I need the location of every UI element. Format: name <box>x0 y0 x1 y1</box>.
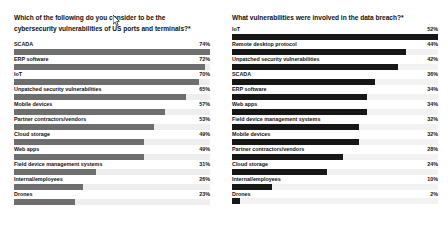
chart-bar <box>232 79 375 85</box>
chart-bar <box>232 34 438 40</box>
chart-row-value: 70% <box>188 71 210 77</box>
chart-bar <box>232 184 272 190</box>
chart-row-head: Partner contractors/vendors53% <box>14 116 210 122</box>
chart-row-value: 32% <box>418 116 438 122</box>
chart-row-head: SCADA74% <box>14 41 210 47</box>
chart-row-value: 53% <box>188 116 210 122</box>
chart-bar <box>14 94 186 100</box>
chart-row-head: Partner contractors/vendors28% <box>232 146 438 152</box>
chart-row: Internal/employees10% <box>232 176 438 189</box>
chart-row-head: IoT52% <box>232 26 438 32</box>
chart-row: Drones23% <box>14 191 210 204</box>
left-chart-rows: SCADA74%ERP software72%IoT70%Unpatched s… <box>14 41 210 204</box>
chart-row-label: Mobile devices <box>14 101 52 107</box>
chart-row: Partner contractors/vendors28% <box>232 146 438 159</box>
chart-row-value: 34% <box>418 86 438 92</box>
chart-bar-track <box>232 154 438 160</box>
left-chart-title: Which of the following do you consider t… <box>14 13 210 34</box>
chart-row-value: 28% <box>418 146 438 152</box>
chart-bar <box>14 199 75 205</box>
chart-bar <box>232 124 359 130</box>
chart-row: Cloud storage49% <box>14 131 210 144</box>
chart-bar-track <box>232 94 438 100</box>
chart-row-head: Cloud storage49% <box>14 131 210 137</box>
chart-row: ERP software34% <box>232 86 438 99</box>
chart-row-value: 32% <box>418 131 438 137</box>
chart-bar-track <box>232 64 438 70</box>
chart-row-head: Cloud storage24% <box>232 161 438 167</box>
chart-row-label: ERP software <box>14 56 49 62</box>
chart-row: Web apps34% <box>232 101 438 114</box>
chart-row: SCADA36% <box>232 71 438 84</box>
chart-row-value: 72% <box>188 56 210 62</box>
chart-row-label: Mobile devices <box>232 131 270 137</box>
chart-row: Mobile devices32% <box>232 131 438 144</box>
chart-row-value: 49% <box>188 131 210 137</box>
chart-row: IoT70% <box>14 71 210 84</box>
chart-bar <box>14 169 96 175</box>
chart-row-head: ERP software72% <box>14 56 210 62</box>
chart-row-label: IoT <box>14 71 22 77</box>
chart-row-head: Field device management systems32% <box>232 116 438 122</box>
chart-row-label: Cloud storage <box>232 161 268 167</box>
chart-row-value: 49% <box>188 146 210 152</box>
chart-bar-track <box>14 49 210 55</box>
chart-row-value: 74% <box>188 41 210 47</box>
chart-bar-track <box>232 79 438 85</box>
chart-bar <box>14 79 199 85</box>
chart-row: Drones2% <box>232 191 438 204</box>
chart-bar <box>232 94 367 100</box>
chart-row-value: 36% <box>418 71 438 77</box>
chart-row-head: Internal/employees10% <box>232 176 438 182</box>
chart-bar-track <box>14 94 210 100</box>
chart-row-label: Web apps <box>232 101 257 107</box>
chart-row: SCADA74% <box>14 41 210 54</box>
chart-row-label: SCADA <box>14 41 33 47</box>
chart-row-head: Mobile devices57% <box>14 101 210 107</box>
chart-row-label: Field device management systems <box>14 161 102 167</box>
chart-row-head: Mobile devices32% <box>232 131 438 137</box>
chart-bar <box>232 109 367 115</box>
chart-row-value: 26% <box>188 176 210 182</box>
right-chart-rows: IoT52%Remote desktop protocol44%Unpatche… <box>232 26 438 204</box>
chart-row-label: Partner contractors/vendors <box>14 116 86 122</box>
chart-row-head: Unpatched security vulnerabilities42% <box>232 56 438 62</box>
chart-row-label: SCADA <box>232 71 251 77</box>
chart-row: IoT52% <box>232 26 438 39</box>
chart-row-value: 34% <box>418 101 438 107</box>
chart-row-value: 31% <box>188 161 210 167</box>
chart-row-value: 2% <box>418 191 438 197</box>
chart-bar-track <box>14 199 210 205</box>
chart-row-value: 52% <box>418 26 438 32</box>
chart-row-label: Internal/employees <box>232 176 281 182</box>
chart-row: Unpatched security vulnerabilities65% <box>14 86 210 99</box>
chart-bar-track <box>232 49 438 55</box>
left-chart-panel: Which of the following do you consider t… <box>0 0 224 248</box>
chart-row: Web apps49% <box>14 146 210 159</box>
chart-bar <box>14 49 210 55</box>
chart-bar-track <box>14 139 210 145</box>
chart-bar-track <box>232 169 438 175</box>
chart-row-label: ERP software <box>232 86 267 92</box>
chart-bar <box>14 124 154 130</box>
chart-row: Internal/employees26% <box>14 176 210 189</box>
chart-bar-track <box>14 154 210 160</box>
right-chart-title: What vulnerabilities were involved in th… <box>232 13 438 24</box>
chart-row-value: 42% <box>418 56 438 62</box>
chart-bar-track <box>14 109 210 115</box>
chart-row-value: 24% <box>418 161 438 167</box>
chart-bar <box>14 184 83 190</box>
chart-bar <box>232 49 406 55</box>
chart-row-head: Remote desktop protocol44% <box>232 41 438 47</box>
dual-bar-chart-figure: Which of the following do you consider t… <box>0 0 448 248</box>
chart-bar <box>14 64 205 70</box>
chart-row-head: Internal/employees26% <box>14 176 210 182</box>
chart-row-label: Drones <box>14 191 33 197</box>
chart-row-value: 23% <box>188 191 210 197</box>
chart-bar-track <box>14 124 210 130</box>
chart-row: Partner contractors/vendors53% <box>14 116 210 129</box>
chart-row-label: Partner contractors/vendors <box>232 146 304 152</box>
chart-row: Remote desktop protocol44% <box>232 41 438 54</box>
chart-bar-track <box>14 79 210 85</box>
chart-bar-track <box>232 139 438 145</box>
